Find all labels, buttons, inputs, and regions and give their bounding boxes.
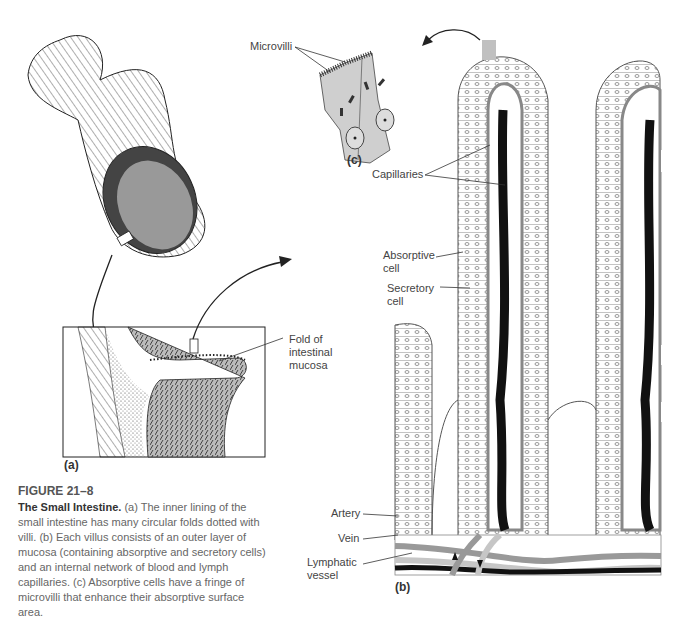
label-absorptive-line1: Absorptive <box>383 249 435 262</box>
panel-b-tag: (b) <box>395 580 410 594</box>
label-lymphatic-vessel: Lymphatic vessel <box>307 556 357 582</box>
panel-c-cells <box>320 53 394 163</box>
label-secretory-line1: Secretory <box>387 282 434 295</box>
figure-number: FIGURE 21–8 <box>18 484 270 498</box>
panel-a-box <box>63 327 265 457</box>
panel-c-tag: (c) <box>347 153 362 167</box>
label-vein: Vein <box>338 532 359 545</box>
panel-a-tag: (a) <box>64 458 79 472</box>
figure-caption-text: The Small Intestine. (a) The inner linin… <box>18 500 270 620</box>
label-fold-of-intestinal-mucosa: Fold of intestinal mucosa <box>289 333 332 372</box>
label-capillaries: Capillaries <box>372 168 423 181</box>
label-absorptive-line2: cell <box>383 262 435 275</box>
label-lymphatic-line2: vessel <box>307 569 357 582</box>
figure-caption-body: (a) The inner lining of the small intest… <box>18 501 266 618</box>
figure-caption: FIGURE 21–8 The Small Intestine. (a) The… <box>18 484 270 620</box>
intestine-drawing <box>28 36 214 269</box>
label-fold-line2: intestinal <box>289 346 332 359</box>
figure-title: The Small Intestine. <box>18 501 121 513</box>
label-fold-line3: mucosa <box>289 359 332 372</box>
label-absorptive-cell: Absorptive cell <box>383 249 435 275</box>
label-artery: Artery <box>331 507 360 520</box>
label-secretory-cell: Secretory cell <box>387 282 434 308</box>
panel-b-villi <box>395 40 671 575</box>
label-microvilli: Microvilli <box>250 40 292 53</box>
label-lymphatic-line1: Lymphatic <box>307 556 357 569</box>
label-secretory-line2: cell <box>387 295 434 308</box>
label-fold-line1: Fold of <box>289 333 332 346</box>
